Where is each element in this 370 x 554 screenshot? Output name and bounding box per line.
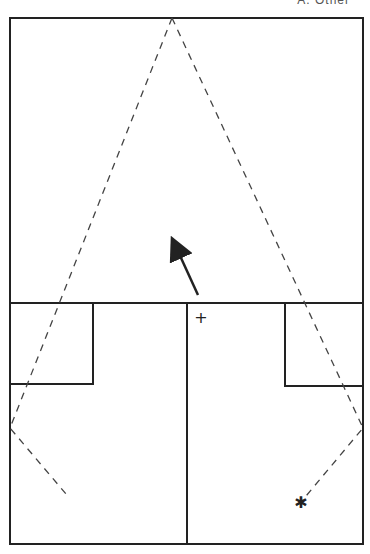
right-box	[285, 303, 363, 386]
right-dashed-path	[172, 18, 363, 502]
diagram-canvas: + ✱	[0, 0, 370, 554]
left-box	[10, 303, 93, 384]
star-marker: ✱	[294, 493, 307, 512]
plus-marker: +	[194, 308, 207, 327]
direction-arrow	[176, 247, 198, 295]
left-dashed-path	[10, 18, 172, 494]
